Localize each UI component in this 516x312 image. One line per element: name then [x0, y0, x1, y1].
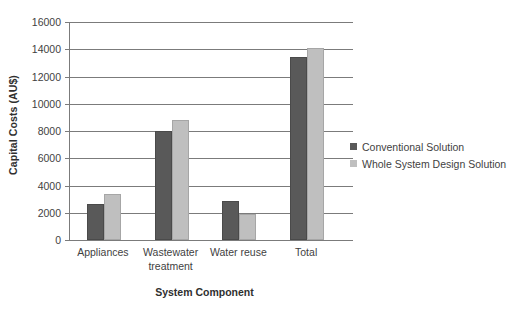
bar — [290, 57, 307, 240]
y-axis-tick-labels: 0200040006000800010000120001400016000 — [26, 22, 66, 240]
bar — [155, 131, 172, 240]
axis-baseline — [70, 240, 341, 241]
y-axis-tick-label: 0 — [55, 234, 61, 246]
plot-area — [69, 22, 341, 240]
x-axis-tick-labels: AppliancesWastewater treatmentWater reus… — [69, 245, 340, 281]
y-axis-tick-mark-right — [341, 49, 353, 50]
y-axis-title: Capital Costs (AU$) — [0, 0, 26, 250]
y-axis-tick-label: 16000 — [32, 16, 61, 28]
legend-swatch-icon — [350, 160, 357, 167]
legend-item: Whole System Design Solution — [350, 155, 514, 172]
y-axis-tick-label: 12000 — [32, 71, 61, 83]
y-axis-tick-label: 6000 — [38, 152, 61, 164]
x-axis-tick-label: Appliances — [69, 245, 137, 259]
x-axis-tick-label: Water reuse — [205, 245, 273, 259]
legend-label: Whole System Design Solution — [362, 158, 506, 170]
y-axis-tick-mark-right — [341, 104, 353, 105]
bar — [222, 201, 239, 240]
bar-chart: Capital Costs (AU$) 02000400060008000100… — [0, 0, 516, 312]
y-axis-tick-label: 8000 — [38, 125, 61, 137]
bar — [307, 48, 324, 240]
y-axis-tick-label: 10000 — [32, 98, 61, 110]
bar — [239, 214, 256, 240]
x-axis-title: System Component — [69, 286, 340, 298]
y-axis-tick-mark-right — [341, 186, 353, 187]
y-axis-tick-label: 4000 — [38, 180, 61, 192]
y-axis-tick-label: 14000 — [32, 43, 61, 55]
y-axis-title-text: Capital Costs (AU$) — [7, 75, 19, 175]
bar — [104, 194, 121, 240]
y-axis-tick-mark-right — [341, 240, 353, 241]
x-axis-tick-label: Wastewater treatment — [137, 245, 205, 273]
legend-label: Conventional Solution — [362, 141, 464, 153]
bars-layer — [70, 22, 341, 240]
bar — [172, 120, 189, 240]
y-axis-tick-mark-right — [341, 213, 353, 214]
x-axis-tick-label: Total — [272, 245, 340, 259]
legend-item: Conventional Solution — [350, 138, 514, 155]
y-axis-tick-mark-right — [341, 22, 353, 23]
chart-legend: Conventional SolutionWhole System Design… — [350, 138, 514, 172]
legend-swatch-icon — [350, 143, 357, 150]
y-axis-tick-label: 2000 — [38, 207, 61, 219]
y-axis-tick-mark-right — [341, 131, 353, 132]
bar — [87, 204, 104, 240]
y-axis-tick-mark-right — [341, 77, 353, 78]
